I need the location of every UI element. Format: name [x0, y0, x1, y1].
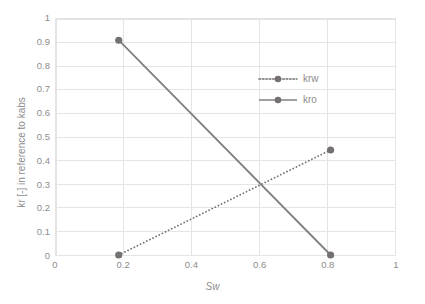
y-axis-tick-label: 0.2 [6, 203, 50, 213]
y-axis-tick-label: 0.5 [6, 132, 50, 142]
y-axis-tick-label: 1 [6, 13, 50, 23]
x-axis-tick-label: 1 [371, 260, 421, 270]
legend-label-krw: krw [303, 73, 319, 84]
y-axis-tick-label: 0.6 [6, 108, 50, 118]
legend-item-krw: krw [258, 68, 319, 89]
plot-area [55, 18, 396, 256]
x-axis-title-label: Sw [206, 281, 220, 292]
y-axis-tick-label: 0.7 [6, 84, 50, 94]
x-axis-tick-label: 0.2 [98, 260, 148, 270]
x-axis-tick-label: 0.6 [235, 260, 285, 270]
x-axis-tick-label: 0 [30, 260, 80, 270]
y-axis-tick-label: 0.1 [6, 227, 50, 237]
chart-legend: krw kro [258, 68, 319, 110]
legend-swatch-kro [258, 94, 298, 106]
legend-item-kro: kro [258, 89, 319, 110]
legend-marker-solid-icon [258, 94, 298, 106]
y-axis-tick-label: 0.9 [6, 37, 50, 47]
y-axis-tick-label: 0.3 [6, 180, 50, 190]
legend-swatch-krw [258, 73, 298, 85]
chart-container: kr [-] in reference to kabs 00.10.20.30.… [0, 0, 425, 304]
x-axis-tick-label: 0.4 [166, 260, 216, 270]
y-axis-tick-label: 0.8 [6, 61, 50, 71]
data-series-layer [56, 19, 395, 255]
y-axis-tick-label: 0.4 [6, 156, 50, 166]
legend-marker-dotted-icon [258, 73, 298, 85]
x-axis-tick-label: 0.8 [303, 260, 353, 270]
legend-label-kro: kro [303, 94, 317, 105]
x-axis-title: Sw [0, 281, 425, 292]
